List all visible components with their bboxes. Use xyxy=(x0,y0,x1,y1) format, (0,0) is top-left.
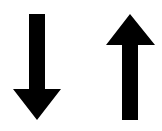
arrow-up-icon xyxy=(106,14,155,120)
arrow-down-icon xyxy=(13,14,61,120)
arrows-canvas xyxy=(0,0,162,131)
